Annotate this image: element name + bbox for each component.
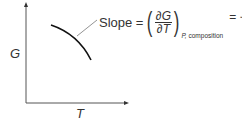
leader-line bbox=[77, 20, 97, 36]
g-vs-t-curve bbox=[51, 25, 91, 60]
numerator: ∂G bbox=[155, 10, 172, 23]
right-paren: ) bbox=[174, 8, 180, 36]
slope-prefix: Slope = bbox=[99, 15, 143, 30]
y-axis-arrowhead bbox=[24, 2, 28, 7]
denominator: ∂T bbox=[157, 23, 170, 35]
y-axis-label: G bbox=[10, 46, 20, 61]
slope-equation: Slope = ( ∂G ∂T ) P, composition = −S bbox=[99, 8, 242, 36]
subscript-rest: composition bbox=[187, 32, 224, 39]
equals-minus-s: = −S bbox=[229, 10, 242, 24]
x-axis-label: T bbox=[76, 106, 84, 121]
partial-derivative: ∂G ∂T bbox=[155, 10, 172, 35]
x-axis-arrowhead bbox=[124, 101, 129, 105]
left-paren: ( bbox=[147, 8, 153, 36]
subscript: P, composition bbox=[181, 32, 223, 39]
